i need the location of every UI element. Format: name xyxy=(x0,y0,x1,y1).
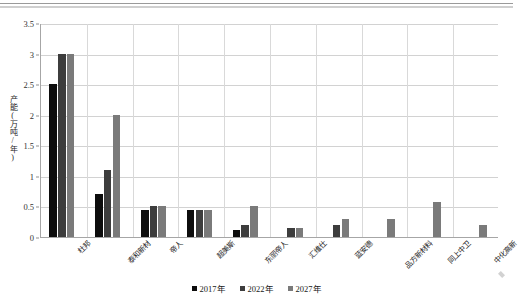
y-tick-label: 1.5 xyxy=(23,141,34,151)
bar xyxy=(158,206,166,237)
legend-swatch-icon xyxy=(192,286,197,291)
y-tick-mark xyxy=(36,176,39,177)
y-tick-mark xyxy=(36,115,39,116)
x-tick-label: 品方新材料 xyxy=(404,240,434,270)
x-tick-label: 杜邦 xyxy=(77,240,92,255)
bar-group xyxy=(416,24,441,237)
y-tick-mark xyxy=(36,146,39,147)
category-separator xyxy=(133,24,134,237)
bar xyxy=(296,228,304,237)
bar-group xyxy=(95,24,120,237)
bar xyxy=(104,170,112,237)
category-separator xyxy=(316,24,317,237)
category-separator xyxy=(453,24,454,237)
bar xyxy=(250,206,258,237)
category-separator xyxy=(362,24,363,237)
legend-label: 2022年 xyxy=(248,282,274,294)
x-tick-label: 汇维仕 xyxy=(308,240,328,260)
bar xyxy=(241,225,249,237)
legend-swatch-icon xyxy=(240,286,245,291)
x-tick-label: 东丽帝人 xyxy=(264,240,289,265)
bar xyxy=(287,228,295,237)
x-tick-label: 中化高新 xyxy=(493,240,518,265)
y-tick-mark xyxy=(36,238,39,239)
page-rule-second xyxy=(0,6,513,8)
bar-group xyxy=(141,24,166,237)
legend-label: 2027年 xyxy=(296,282,322,294)
x-tick-label: 帝人 xyxy=(169,240,184,255)
bar xyxy=(433,202,441,237)
bar xyxy=(150,206,158,237)
bar xyxy=(58,54,66,237)
bar xyxy=(333,225,341,237)
y-tick-mark xyxy=(36,54,39,55)
bar-group xyxy=(49,24,74,237)
legend-label: 2017年 xyxy=(200,282,226,294)
category-separator xyxy=(178,24,179,237)
y-tick-label: 1 xyxy=(30,172,34,182)
bar-group xyxy=(370,24,395,237)
page-rule-top xyxy=(0,3,513,4)
bar xyxy=(67,54,75,237)
x-tick-label: 同上中卫 xyxy=(447,240,472,265)
y-tick-label: 0.5 xyxy=(23,202,34,212)
scan-artifact-icon xyxy=(498,271,505,278)
category-separator xyxy=(87,24,88,237)
y-tick-label: 3.5 xyxy=(23,19,34,29)
y-tick-mark xyxy=(36,85,39,86)
bar xyxy=(113,115,121,237)
legend-item: 2017年 xyxy=(192,282,226,294)
y-tick-label: 0 xyxy=(30,233,34,243)
bar xyxy=(342,219,350,237)
bar xyxy=(196,210,204,238)
bar xyxy=(479,225,487,237)
plot-area xyxy=(40,24,498,238)
bar-group xyxy=(233,24,258,237)
y-tick-mark xyxy=(36,24,39,25)
bar-group xyxy=(278,24,303,237)
category-separator xyxy=(407,24,408,237)
bar xyxy=(141,210,149,238)
x-tick-label: 蓝安德 xyxy=(354,240,374,260)
y-axis-tick-labels: 00.511.522.533.5 xyxy=(0,24,38,238)
bar xyxy=(204,210,212,238)
legend-item: 2022年 xyxy=(240,282,274,294)
chart-legend: 2017年2022年2027年 xyxy=(0,282,513,294)
bar xyxy=(95,194,103,237)
bar xyxy=(187,210,195,238)
legend-item: 2027年 xyxy=(288,282,322,294)
category-separator xyxy=(224,24,225,237)
bar xyxy=(49,84,57,237)
y-tick-mark xyxy=(36,207,39,208)
x-axis-category-labels: 杜邦泰和新材帝人超美斯东丽帝人汇维仕蓝安德品方新材料同上中卫中化高新 xyxy=(40,240,498,286)
bar xyxy=(233,230,241,237)
bar-group xyxy=(324,24,349,237)
x-tick-label: 泰和新材 xyxy=(127,240,152,265)
y-tick-label: 3 xyxy=(30,50,34,60)
legend-swatch-icon xyxy=(288,286,293,291)
y-tick-label: 2.5 xyxy=(23,80,34,90)
category-separator xyxy=(270,24,271,237)
y-tick-label: 2 xyxy=(30,111,34,121)
bar-group xyxy=(187,24,212,237)
bar xyxy=(387,219,395,237)
bar-group xyxy=(462,24,487,237)
x-tick-label: 超美斯 xyxy=(216,240,236,260)
